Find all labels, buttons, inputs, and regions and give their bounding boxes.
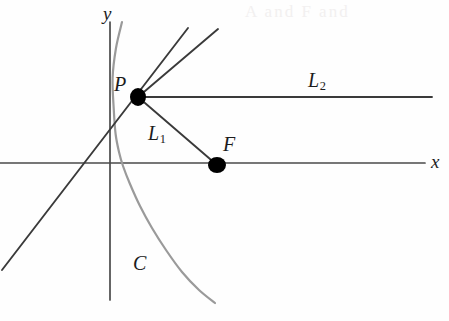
point-f-marker (208, 157, 226, 173)
ray-l2-label: L2 (308, 70, 326, 93)
point-f-label: F (223, 134, 235, 154)
segment-l1-label: L1 (148, 123, 166, 146)
point-p-marker (130, 88, 146, 106)
lines-group (2, 28, 432, 270)
point-p-label: P (114, 74, 126, 94)
segment-l1-label-main: L (148, 122, 159, 144)
ray-l2-label-subscript: 2 (320, 79, 326, 93)
secondary-ray-path (138, 29, 218, 97)
tangent-path (2, 28, 188, 270)
figure-canvas (0, 0, 449, 321)
parabola-figure: A and F and y x P F L1 L2 C (0, 0, 449, 321)
scan-bleed-through-text: A and F and (245, 2, 350, 22)
x-axis-label: x (431, 152, 439, 171)
ray-l2-label-main: L (308, 69, 319, 91)
curve-c-label: C (133, 253, 146, 273)
segment-l1-label-subscript: 1 (160, 132, 166, 146)
y-axis-label: y (103, 4, 111, 23)
